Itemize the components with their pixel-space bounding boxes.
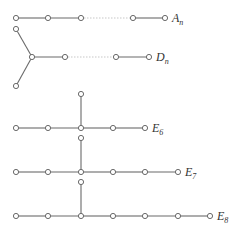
- node-dn-1: [13, 83, 18, 88]
- node-e8-2: [78, 213, 83, 218]
- node-e8-0: [13, 213, 18, 218]
- dynkin-diagram-e6: [16, 94, 145, 128]
- node-e6-1: [45, 125, 50, 130]
- node-dn-0: [13, 26, 18, 31]
- node-e8-5: [175, 213, 180, 218]
- node-e7-4: [142, 169, 147, 174]
- node-e7-3: [110, 169, 115, 174]
- node-e8-4: [142, 213, 147, 218]
- node-e7-6: [78, 135, 83, 140]
- label-e7: E7: [184, 165, 197, 181]
- labels-layer: AnDnE6E7E8: [151, 11, 228, 225]
- node-e6-5: [78, 91, 83, 96]
- node-an-3: [130, 15, 135, 20]
- node-e8-3: [110, 213, 115, 218]
- nodes-layer: [13, 15, 212, 218]
- edges-layer: [16, 18, 210, 216]
- node-e7-5: [175, 169, 180, 174]
- node-e6-3: [110, 125, 115, 130]
- label-dn: Dn: [155, 50, 169, 66]
- dynkin-diagram-e8: [16, 182, 210, 216]
- node-dn-2: [29, 54, 34, 59]
- dynkin-diagram-dn: [16, 29, 149, 86]
- node-dn-4: [113, 54, 118, 59]
- node-e8-6: [207, 213, 212, 218]
- node-e8-1: [45, 213, 50, 218]
- edge: [16, 29, 32, 57]
- node-e6-4: [142, 125, 147, 130]
- node-an-1: [45, 15, 50, 20]
- node-e6-0: [13, 125, 18, 130]
- node-e7-2: [78, 169, 83, 174]
- node-an-0: [13, 15, 18, 20]
- dynkin-diagrams-canvas: AnDnE6E7E8: [0, 0, 240, 231]
- node-an-2: [78, 15, 83, 20]
- node-e8-7: [78, 179, 83, 184]
- label-e6: E6: [151, 121, 163, 137]
- label-e8: E8: [216, 209, 228, 225]
- node-an-4: [162, 15, 167, 20]
- node-dn-3: [62, 54, 67, 59]
- node-e7-0: [13, 169, 18, 174]
- label-an: An: [171, 11, 183, 27]
- edge: [16, 57, 32, 86]
- node-e6-2: [78, 125, 83, 130]
- node-e7-1: [45, 169, 50, 174]
- node-dn-5: [146, 54, 151, 59]
- dynkin-diagram-e7: [16, 138, 178, 172]
